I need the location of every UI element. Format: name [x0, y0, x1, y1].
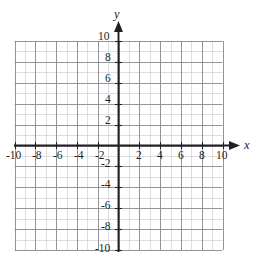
y-tick-label-8: 8 — [105, 52, 111, 64]
y-axis-label: y — [114, 8, 120, 21]
x-tick-label--8: -8 — [32, 150, 42, 162]
y-tick-label--10: -10 — [95, 243, 110, 255]
y-tick-label--8: -8 — [101, 221, 111, 233]
x-axis-arrowhead — [229, 141, 240, 150]
x-tick-label-2: 2 — [136, 150, 142, 162]
x-tick-label-4: 4 — [157, 150, 163, 162]
x-tick-label-6: 6 — [178, 150, 184, 162]
x-tick-label--6: -6 — [53, 150, 63, 162]
axis-arrowheads — [114, 21, 240, 150]
y-tick-label-2: 2 — [105, 115, 111, 127]
x-tick-label-10: 10 — [216, 150, 228, 162]
coordinate-grid-canvas — [0, 0, 258, 269]
y-tick-label--4: -4 — [101, 179, 111, 191]
y-tick-label-6: 6 — [105, 73, 111, 85]
y-tick-label--6: -6 — [101, 200, 111, 212]
axis-lines — [14, 28, 234, 252]
x-tick-label--4: -4 — [74, 150, 84, 162]
x-axis-label: x — [244, 139, 250, 152]
y-tick-label-4: 4 — [105, 94, 111, 106]
coordinate-plane-figure: -10 -8 -6 -4 -2 2 4 6 8 10 10 8 6 4 2 -2… — [0, 0, 258, 269]
x-tick-label-8: 8 — [199, 150, 205, 162]
y-axis-arrowhead — [114, 21, 123, 32]
x-tick-label--10: -10 — [6, 150, 21, 162]
y-tick-label-10: 10 — [98, 31, 110, 43]
y-tick-label--2: -2 — [101, 158, 111, 170]
